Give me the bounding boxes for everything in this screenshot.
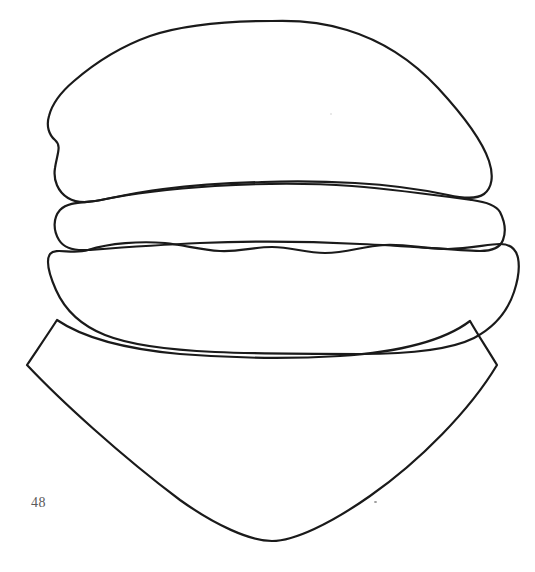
- hamburger-line-art: [0, 0, 535, 572]
- scan-artifact-speck-lower: [374, 501, 377, 503]
- top-bun-outline: [48, 21, 492, 202]
- coloring-page: 48: [0, 0, 535, 572]
- page-number: 48: [31, 495, 46, 511]
- patty-layer-outline: [48, 242, 519, 354]
- scan-artifact-speck-upper: [330, 113, 332, 115]
